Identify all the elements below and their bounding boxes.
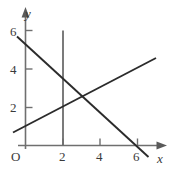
y-tick-label-4: 4 (10, 63, 17, 76)
coordinate-plot-svg (0, 0, 174, 172)
x-axis-label: x (157, 152, 163, 165)
x-axis-arrow-icon (157, 141, 168, 149)
y-axis-label: y (25, 7, 31, 20)
graph-figure: y x O 6 4 2 2 4 6 (0, 0, 174, 172)
x-tick-label-4: 4 (96, 150, 103, 163)
origin-label: O (11, 150, 20, 163)
x-tick-label-2: 2 (59, 150, 66, 163)
line-ascending (13, 58, 156, 133)
x-tick-label-6: 6 (133, 150, 140, 163)
y-tick-label-2: 2 (10, 101, 17, 114)
y-tick-label-6: 6 (10, 25, 17, 38)
